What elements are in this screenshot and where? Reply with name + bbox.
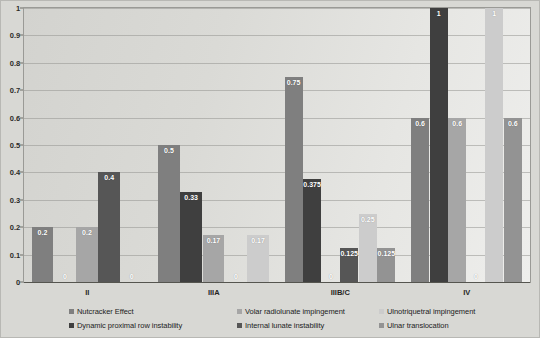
legend-label: Ulnotriquetral impingement xyxy=(387,307,475,316)
legend-swatch-icon xyxy=(237,309,242,314)
legend-swatch-icon xyxy=(379,323,384,328)
bar-value-label: 0.6 xyxy=(415,120,425,127)
legend-label: Ulnar translocation xyxy=(387,321,449,330)
y-axis-tick-label: 0.5 xyxy=(10,141,20,150)
bar-value-label: 0.6 xyxy=(508,120,518,127)
chart-legend: Nutcracker EffectVolar radiolunate impin… xyxy=(69,303,473,333)
bar[interactable]: 0.6 xyxy=(411,118,429,282)
bar[interactable]: 0.125 xyxy=(377,248,395,282)
bar-value-label: 0.125 xyxy=(378,250,396,257)
legend-label: Volar radiolunate impingement xyxy=(245,307,345,316)
bar[interactable]: 0.75 xyxy=(285,77,303,283)
bar[interactable]: 1 xyxy=(485,8,503,282)
y-axis-tick-label: 0.6 xyxy=(10,113,20,122)
y-axis-tick-label: 0.3 xyxy=(10,195,20,204)
y-axis-tick-label: 0.4 xyxy=(10,168,20,177)
legend-row: Dynamic proximal row instabilityInternal… xyxy=(69,319,473,331)
legend-label: Internal lunate instability xyxy=(245,321,324,330)
legend-item[interactable]: Ulnar translocation xyxy=(379,319,449,331)
bar-value-label: 0.4 xyxy=(104,174,114,181)
y-axis-tick-label: 0.1 xyxy=(10,250,20,259)
legend-item[interactable]: Volar radiolunate impingement xyxy=(237,305,345,317)
axis-baseline xyxy=(24,282,530,283)
legend-swatch-icon xyxy=(69,323,74,328)
bar-value-label: 0 xyxy=(474,273,478,280)
bar-value-label: 0.6 xyxy=(452,120,462,127)
bar-value-label: 0 xyxy=(329,273,333,280)
bar-value-label: 0.375 xyxy=(303,181,321,188)
bar-value-label: 0.2 xyxy=(38,229,48,236)
x-axis-tick-label: IIIA xyxy=(208,288,220,297)
y-axis-tick-label: 0.8 xyxy=(10,58,20,67)
bar[interactable]: 0.6 xyxy=(504,118,522,282)
bar[interactable]: 0.4 xyxy=(98,172,120,282)
bar-value-label: 0.2 xyxy=(82,229,92,236)
legend-swatch-icon xyxy=(69,309,74,314)
x-axis: IIIIIAIIIB/CIV xyxy=(24,286,530,300)
legend-item[interactable]: Dynamic proximal row instability xyxy=(69,319,182,331)
bar-value-label: 1 xyxy=(492,10,496,17)
y-axis-tick-label: 0.7 xyxy=(10,86,20,95)
bar[interactable]: 0.6 xyxy=(448,118,466,282)
bar-value-label: 0.17 xyxy=(251,237,265,244)
legend-label: Nutcracker Effect xyxy=(77,307,134,316)
legend-row: Nutcracker EffectVolar radiolunate impin… xyxy=(69,305,473,317)
bar-value-label: 0.25 xyxy=(361,216,375,223)
legend-label: Dynamic proximal row instability xyxy=(77,321,182,330)
bar-value-label: 0.5 xyxy=(164,147,174,154)
bar[interactable]: 0.17 xyxy=(247,235,269,282)
legend-swatch-icon xyxy=(237,323,242,328)
bar-group: 0.50.330.1700.17 xyxy=(151,8,278,282)
bar[interactable]: 0.375 xyxy=(303,179,321,282)
bar[interactable]: 0.2 xyxy=(76,227,98,282)
legend-swatch-icon xyxy=(379,309,384,314)
legend-item[interactable]: Nutcracker Effect xyxy=(69,305,134,317)
legend-item[interactable]: Internal lunate instability xyxy=(237,319,324,331)
bar-value-label: 0.33 xyxy=(184,194,198,201)
bar-value-label: 0.75 xyxy=(287,79,301,86)
bar-chart-figure: 00.10.20.30.40.50.60.70.80.91 0.200.20.4… xyxy=(0,0,540,338)
y-axis-tick-label: 0.2 xyxy=(10,223,20,232)
y-axis: 00.10.20.30.40.50.60.70.80.91 xyxy=(1,8,23,282)
bar-group: 0.200.20.40 xyxy=(24,8,151,282)
bar[interactable]: 1 xyxy=(430,8,448,282)
bar-value-label: 0 xyxy=(130,273,134,280)
bar-value-label: 0 xyxy=(63,273,67,280)
bar-group: 0.610.6010.6 xyxy=(404,8,531,282)
legend-item[interactable]: Ulnotriquetral impingement xyxy=(379,305,475,317)
bar[interactable]: 0.25 xyxy=(359,214,377,283)
plot-area: 0.200.20.400.50.330.1700.170.750.37500.1… xyxy=(24,8,530,282)
bar[interactable]: 0.5 xyxy=(158,145,180,282)
bar-value-label: 1 xyxy=(437,10,441,17)
y-axis-tick-label: 0.9 xyxy=(10,31,20,40)
x-axis-tick-label: IIIB/C xyxy=(331,288,350,297)
bar-group: 0.750.37500.1250.250.125 xyxy=(277,8,404,282)
bar[interactable]: 0.2 xyxy=(32,227,54,282)
bar-value-label: 0.125 xyxy=(340,250,358,257)
bar[interactable]: 0.17 xyxy=(203,235,225,282)
bar-value-label: 0 xyxy=(234,273,238,280)
bar[interactable]: 0.125 xyxy=(340,248,358,282)
bar[interactable]: 0.33 xyxy=(180,192,202,282)
x-axis-tick-label: II xyxy=(85,288,89,297)
x-axis-tick-label: IV xyxy=(463,288,470,297)
bar-value-label: 0.17 xyxy=(207,237,221,244)
